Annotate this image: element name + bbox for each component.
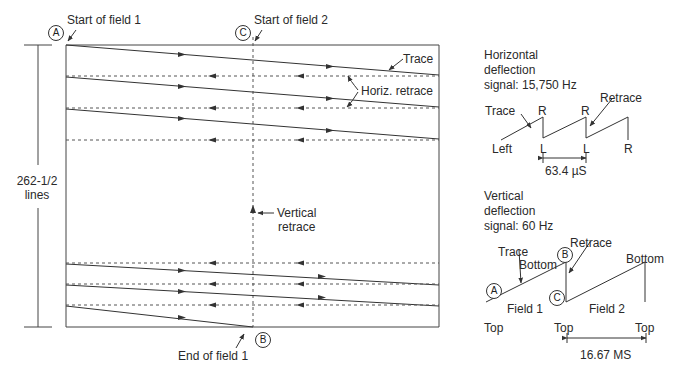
v-bottom1-label: Bottom <box>519 258 557 272</box>
horizontal-signal-title: Horizontal deflection signal: 15,750 Hz <box>484 48 577 93</box>
v-top2-label: Top <box>554 321 573 335</box>
h-r3-label: R <box>624 142 633 156</box>
v-point-b-marker: B <box>557 247 573 263</box>
h-retrace-label: Retrace <box>600 91 642 105</box>
h-period-label: 63.4 µS <box>545 164 587 178</box>
horizontal-sawtooth <box>501 99 628 163</box>
v-bottom2-label: Bottom <box>626 252 664 266</box>
h-l2-label: L <box>583 142 590 156</box>
v-trace-label: Trace <box>498 245 528 259</box>
trace-label: Trace <box>403 52 433 66</box>
vertical-signal-title: Vertical deflection signal: 60 Hz <box>484 189 553 234</box>
v-top1-label: Top <box>484 321 503 335</box>
vertical-retrace-arrow-icon <box>250 205 256 213</box>
interlaced-scan-diagram <box>0 0 681 372</box>
end-field1-label: End of field 1 <box>178 349 248 363</box>
point-a-marker: A <box>48 25 64 41</box>
start-field1-label: Start of field 1 <box>67 13 141 27</box>
v-point-c-marker: C <box>549 290 565 306</box>
point-b-marker: B <box>255 332 271 348</box>
lines-count-label: 262-1/2 lines <box>6 174 68 202</box>
point-c-marker: C <box>235 25 251 41</box>
v-retrace-label: Retrace <box>570 236 612 250</box>
v-point-a-marker: A <box>486 283 502 299</box>
start-field2-label: Start of field 2 <box>254 13 328 27</box>
h-trace-label: Trace <box>485 104 515 118</box>
v-top3-label: Top <box>635 321 654 335</box>
h-left-label: Left <box>492 142 512 156</box>
horiz-retrace-label: Horiz. retrace <box>361 84 433 98</box>
h-r2-label: R <box>581 104 590 118</box>
v-field1-label: Field 1 <box>507 302 543 316</box>
v-period-label: 16.67 MS <box>580 348 631 362</box>
v-field2-label: Field 2 <box>589 302 625 316</box>
vertical-retrace-label: Vertical retrace <box>277 206 316 234</box>
h-r1-label: R <box>538 104 547 118</box>
h-l1-label: L <box>540 142 547 156</box>
callout-arrows <box>68 30 403 348</box>
